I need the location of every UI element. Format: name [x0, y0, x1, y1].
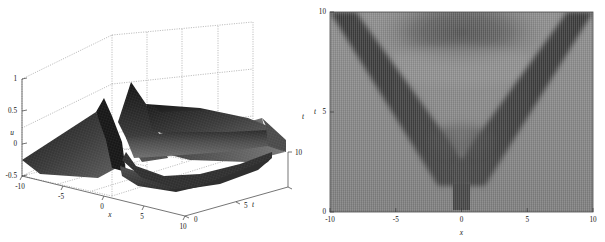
two-panel-figure: 1 0.5 0 -0.5 -10 -5 0 5 10 0 5 10 u x: [0, 0, 605, 242]
x-tick-5: [142, 206, 144, 210]
x-tick-m5: [61, 186, 63, 190]
raster-stripe-overlay: [330, 12, 593, 212]
u-tick-label-1: 1: [13, 75, 17, 83]
u-tick-05: [22, 110, 27, 111]
t-tick-10: [288, 187, 292, 189]
x-tick-label-10: 10: [179, 223, 187, 231]
density-x-tick-label-m5: -5: [393, 216, 399, 224]
density-image: [330, 0, 593, 212]
surface-plot-panel: 1 0.5 0 -0.5 -10 -5 0 5 10 0 5 10 u x: [0, 0, 310, 242]
t-tick-5: [236, 202, 240, 204]
density-plot-svg: -10 -5 0 5 10 0 5 10 x t: [310, 0, 605, 242]
x-tick-label-m5: -5: [58, 193, 64, 201]
density-x-tick-label-m10: -10: [325, 216, 335, 224]
density-x-tick-label-0: 0: [460, 216, 464, 224]
density-x-axis-title: x: [459, 228, 464, 237]
t-tick-label-10: 10: [295, 149, 303, 157]
x-tick-m10: [20, 176, 22, 180]
density-x-tick-label-5: 5: [525, 216, 529, 224]
x-tick-label-5: 5: [140, 213, 144, 221]
t-tick-label-5: 5: [244, 202, 248, 210]
density-x-tick-label-10: 10: [589, 216, 597, 224]
u-axis-title: u: [10, 128, 14, 137]
x-tick-label-m10: -10: [15, 183, 25, 191]
x-tick-label-0: 0: [100, 203, 104, 211]
t-tick-0: [185, 216, 189, 218]
t-axis-title: t: [252, 200, 255, 209]
x-tick-10: [183, 216, 185, 220]
u-tick-label-05: 0.5: [8, 107, 17, 115]
density-t-tick-label-10: 10: [319, 8, 327, 16]
u-tick-1: [22, 78, 27, 79]
t-axis-line: [185, 187, 288, 216]
surface-mesh-overlay: [22, 82, 286, 192]
density-t-tick-label-0: 0: [322, 208, 326, 216]
surface-mesh: [22, 82, 286, 192]
u-tick-m05: [22, 175, 27, 176]
x-tick-0: [102, 196, 104, 200]
density-t-tick-label-5: 5: [322, 108, 326, 116]
u-tick-label-m05: -0.5: [6, 172, 18, 180]
u-tick-label-0: 0: [13, 140, 17, 148]
t-axis-title-upper: t: [302, 112, 305, 121]
u-tick-0: [22, 143, 27, 144]
x-axis-title: x: [107, 210, 112, 219]
density-t-axis-title: t: [314, 107, 317, 116]
density-plot-panel: -10 -5 0 5 10 0 5 10 x t: [310, 0, 605, 242]
t-tick-label-0: 0: [194, 216, 198, 224]
surface-plot-svg: 1 0.5 0 -0.5 -10 -5 0 5 10 0 5 10 u x: [0, 0, 310, 242]
